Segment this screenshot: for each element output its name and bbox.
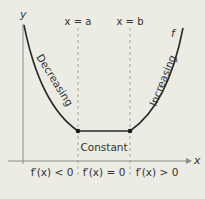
- function-monotonicity-diagram: y x x = a x = b f Decreasing Increasing …: [0, 0, 205, 199]
- x-axis-arrow-icon: [186, 158, 192, 164]
- constant-label: Constant: [80, 141, 127, 153]
- y-axis-label: y: [19, 8, 27, 21]
- condition-constant: f′(x) = 0: [83, 166, 126, 178]
- x-equals-b-label: x = b: [116, 16, 143, 27]
- increasing-label: Increasing: [147, 53, 178, 108]
- curve-label-f: f: [171, 27, 177, 40]
- condition-decreasing: f′(x) < 0: [31, 166, 74, 178]
- x-axis-label: x: [193, 154, 201, 167]
- point-b: [128, 129, 133, 134]
- x-equals-a-label: x = a: [65, 16, 92, 27]
- condition-increasing: f′(x) > 0: [136, 166, 179, 178]
- point-a: [76, 129, 81, 134]
